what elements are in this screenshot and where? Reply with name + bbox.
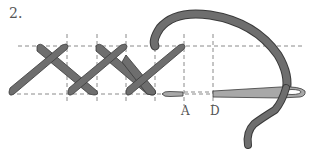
stitches (9, 44, 185, 95)
point-label-a: A (181, 104, 190, 118)
point-label-d: D (210, 104, 220, 118)
cross-stitch-diagram (0, 0, 311, 154)
needle-tip (162, 91, 183, 96)
